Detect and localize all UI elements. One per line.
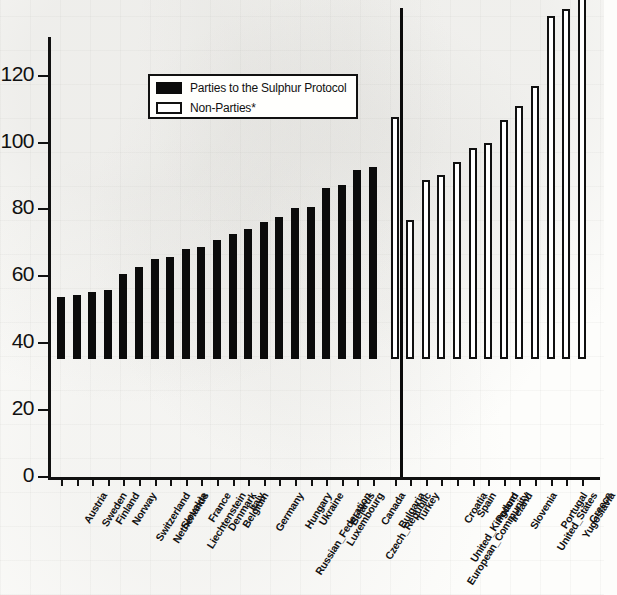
- legend-swatch-black-icon: [156, 82, 182, 94]
- legend-item-parties: Parties to the Sulphur Protocol: [156, 78, 356, 98]
- legend-label-parties: Parties to the Sulphur Protocol: [190, 81, 347, 95]
- chart-legend: Parties to the Sulphur Protocol Non-Part…: [148, 74, 358, 119]
- x-tick-label: Germany: [273, 490, 306, 533]
- legend-label-nonparties: Non-Parties*: [190, 101, 256, 115]
- legend-swatch-white-icon: [156, 102, 182, 114]
- legend-item-nonparties: Non-Parties*: [156, 98, 356, 118]
